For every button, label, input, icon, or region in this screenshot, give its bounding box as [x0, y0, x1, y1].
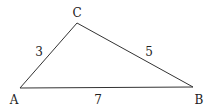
edge-label-cb: 5 [145, 46, 153, 58]
triangle-diagram: A B C 3 5 7 [0, 0, 213, 110]
edge-label-ab: 7 [94, 94, 102, 106]
vertex-label-a: A [10, 94, 19, 106]
edge-label-ac: 3 [35, 46, 43, 58]
edge-a-c [20, 23, 77, 88]
edge-c-b [77, 23, 193, 87]
vertex-label-b: B [195, 94, 204, 106]
vertex-label-c: C [72, 7, 81, 19]
triangle-shape [0, 0, 213, 110]
edge-a-b [20, 87, 193, 88]
